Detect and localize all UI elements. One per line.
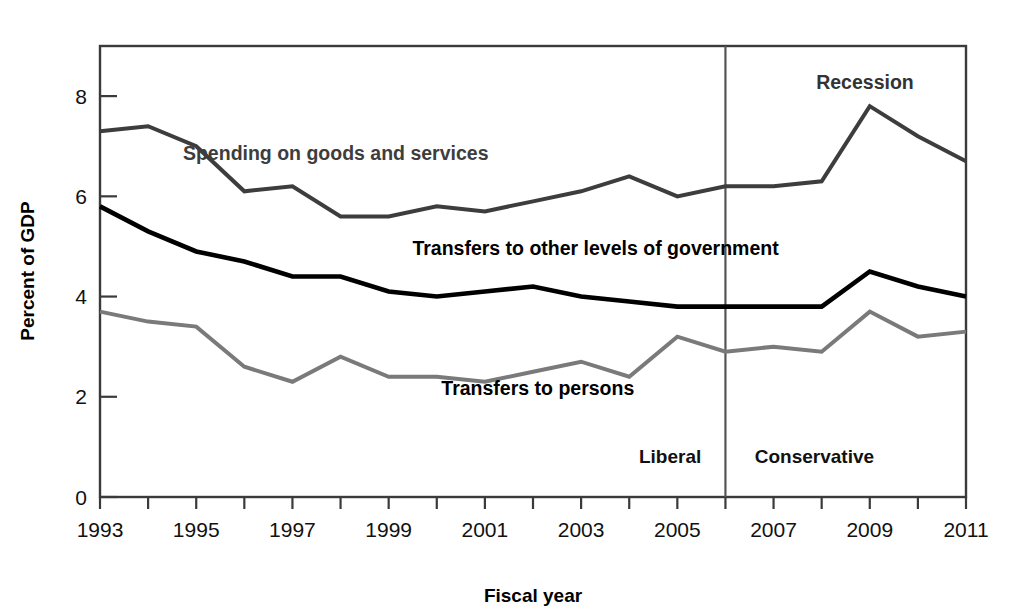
x-tick-label: 2011	[943, 518, 988, 541]
chart-container: 02468 1993199519971999200120032005200720…	[0, 0, 1022, 615]
x-tick-label: 1999	[365, 518, 412, 541]
y-tick-label: 8	[75, 85, 87, 108]
x-tick-label: 2003	[558, 518, 605, 541]
line-chart: 02468 1993199519971999200120032005200720…	[0, 0, 1022, 615]
y-tick-label: 4	[75, 285, 87, 308]
era-labels-group: LiberalConservative	[639, 446, 874, 467]
x-tick-label: 1995	[173, 518, 220, 541]
x-tick-label: 2007	[750, 518, 797, 541]
x-tick-label: 1993	[77, 518, 124, 541]
x-axis-title: Fiscal year	[484, 585, 583, 606]
era-label-liberal: Liberal	[639, 446, 701, 467]
x-tick-label: 2005	[654, 518, 701, 541]
x-tick-label: 1997	[269, 518, 316, 541]
y-tick-label: 2	[75, 385, 87, 408]
y-tick-label: 0	[75, 486, 87, 509]
era-label-conservative: Conservative	[755, 446, 874, 467]
y-tick-label: 6	[75, 185, 87, 208]
annotations-group: Recession	[816, 71, 914, 93]
series-label-1: Transfers to other levels of government	[412, 237, 779, 259]
x-tick-label: 2009	[846, 518, 893, 541]
x-tick-label: 2001	[462, 518, 509, 541]
y-axis-title: Percent of GDP	[17, 201, 38, 341]
series-label-0: Spending on goods and services	[183, 142, 489, 164]
annotation-recession: Recession	[816, 71, 914, 93]
series-label-2: Transfers to persons	[441, 377, 634, 399]
